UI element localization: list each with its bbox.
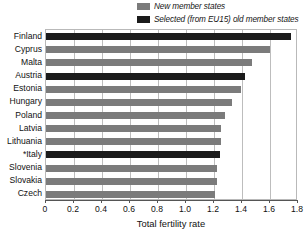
bar-estonia: [46, 86, 241, 93]
legend-label-old-member-states: Selected (from EU15) old member states: [154, 15, 299, 25]
category-label-poland: Poland: [0, 110, 42, 120]
x-axis-tick: [297, 200, 298, 203]
bar-row: [46, 83, 296, 96]
legend-label-new-member-states: New member states: [154, 2, 225, 12]
category-label-cyprus: Cyprus: [0, 44, 42, 54]
bar-latvia: [46, 125, 221, 132]
category-label-malta: Malta: [0, 57, 42, 67]
x-axis-tick: [185, 200, 186, 203]
x-axis-tick-label: 1.4: [235, 204, 247, 215]
x-axis-tick-label: 1.2: [207, 204, 219, 215]
x-axis-tick: [129, 200, 130, 203]
x-axis-tick: [213, 200, 214, 203]
x-axis-tick-label: 0.8: [151, 204, 163, 215]
bar-row: [46, 43, 296, 56]
legend-item-new-member-states: New member states: [137, 1, 305, 12]
bar-series: [46, 30, 296, 199]
x-axis-tick: [73, 200, 74, 203]
bar-poland: [46, 112, 225, 119]
category-label-finland: Finland: [0, 31, 42, 41]
x-axis-tick: [101, 200, 102, 203]
bar-lithuania: [46, 138, 221, 145]
x-axis-tick-label: 0: [43, 204, 48, 215]
category-label-italy: *Italy: [0, 149, 42, 159]
category-label-slovakia: Slovakia: [0, 175, 42, 185]
legend-swatch-old-member-states: [137, 16, 150, 23]
category-label-slovenia: Slovenia: [0, 162, 42, 172]
bar-hungary: [46, 99, 232, 106]
legend-swatch-new-member-states: [137, 3, 150, 10]
x-axis-tick-label: 0.4: [95, 204, 107, 215]
bar-row: [46, 30, 296, 43]
bar-czech: [46, 191, 215, 198]
category-label-czech: Czech: [0, 188, 42, 198]
bar-austria: [46, 73, 245, 80]
plot-area: [45, 29, 297, 200]
category-label-hungary: Hungary: [0, 96, 42, 106]
bar-slovenia: [46, 165, 217, 172]
bar-row: [46, 69, 296, 82]
x-axis-title: Total fertility rate: [45, 218, 297, 230]
bar-finland: [46, 33, 291, 40]
x-axis-tick-label: 1.0: [179, 204, 191, 215]
bar-italy: [46, 151, 220, 158]
category-label-austria: Austria: [0, 70, 42, 80]
bar-row: [46, 175, 296, 188]
bar-row: [46, 109, 296, 122]
x-axis-tick-label: 0.6: [123, 204, 135, 215]
chart-legend: New member states Selected (from EU15) o…: [137, 1, 305, 25]
bar-malta: [46, 59, 252, 66]
legend-item-old-member-states: Selected (from EU15) old member states: [137, 14, 305, 25]
bar-row: [46, 122, 296, 135]
bar-cyprus: [46, 46, 270, 53]
x-axis-tick-label: 1.8: [291, 204, 303, 215]
category-label-latvia: Latvia: [0, 123, 42, 133]
x-axis-tick-label: 0.2: [67, 204, 79, 215]
category-label-lithuania: Lithuania: [0, 136, 42, 146]
x-axis-tick-labels: 00.20.40.60.81.01.21.41.61.8: [45, 204, 297, 216]
x-axis-tick: [157, 200, 158, 203]
bar-row: [46, 188, 296, 201]
category-label-estonia: Estonia: [0, 83, 42, 93]
fertility-rate-bar-chart: New member states Selected (from EU15) o…: [0, 0, 306, 243]
bar-row: [46, 135, 296, 148]
x-axis-tick-label: 1.6: [263, 204, 275, 215]
x-axis-tick: [241, 200, 242, 203]
bar-slovakia: [46, 178, 217, 185]
x-axis-tick: [45, 200, 46, 203]
bar-row: [46, 162, 296, 175]
bar-row: [46, 96, 296, 109]
category-axis-labels: FinlandCyprusMaltaAustriaEstoniaHungaryP…: [0, 29, 42, 200]
x-axis-tick: [269, 200, 270, 203]
bar-row: [46, 56, 296, 69]
bar-row: [46, 148, 296, 161]
